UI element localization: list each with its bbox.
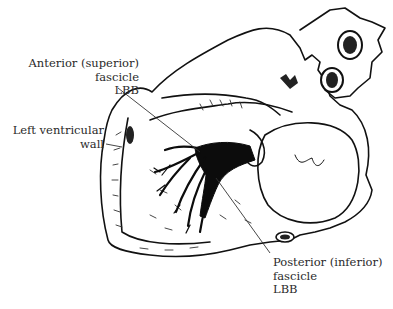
label-anterior-fascicle: Anterior (superior) fascicle LBB [4, 57, 139, 98]
label-line: Posterior (inferior) [273, 256, 383, 270]
heart-diagram: Anterior (superior) fascicle LBB Left ve… [0, 0, 393, 309]
label-line: fascicle [273, 270, 383, 284]
left-bundle-branch [154, 142, 255, 233]
label-line: wall [4, 138, 104, 152]
leader-lv-wall [106, 144, 122, 147]
label-line: Left ventricular [4, 124, 104, 138]
leader-posterior [216, 178, 270, 253]
label-posterior-fascicle: Posterior (inferior) fascicle LBB [273, 256, 383, 297]
label-left-ventricular-wall: Left ventricular wall [4, 124, 104, 151]
label-line: Anterior (superior) [4, 57, 139, 71]
outflow-chamber [258, 123, 359, 223]
label-line: LBB [273, 283, 383, 297]
label-line: fascicle [4, 71, 139, 85]
label-line: LBB [4, 84, 139, 98]
heart-outline [101, 28, 372, 256]
